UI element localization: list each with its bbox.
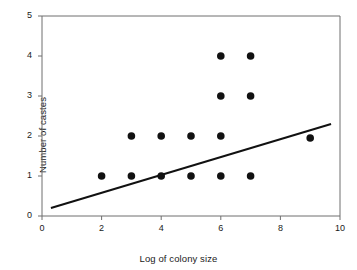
data-point bbox=[128, 132, 136, 140]
axis-ticks bbox=[38, 16, 340, 220]
data-point bbox=[157, 172, 165, 180]
scatter-plot-figure: Number of castes Log of colony size 0 1 … bbox=[0, 0, 357, 270]
data-point bbox=[306, 134, 314, 142]
data-point bbox=[247, 172, 255, 180]
plot-canvas bbox=[0, 0, 357, 270]
data-point bbox=[187, 172, 195, 180]
data-point bbox=[157, 132, 165, 140]
data-point bbox=[217, 172, 225, 180]
data-point bbox=[247, 52, 255, 60]
data-point bbox=[128, 172, 136, 180]
data-point bbox=[217, 92, 225, 100]
data-point bbox=[187, 132, 195, 140]
data-point bbox=[247, 92, 255, 100]
data-point bbox=[217, 52, 225, 60]
plot-frame bbox=[42, 16, 340, 216]
data-point bbox=[98, 172, 106, 180]
data-point bbox=[217, 132, 225, 140]
